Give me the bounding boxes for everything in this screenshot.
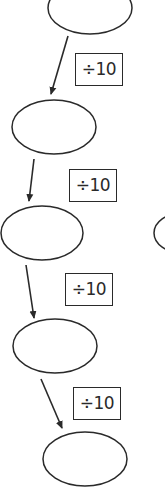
answer-oval-1 <box>48 0 132 34</box>
answer-oval-3 <box>1 206 83 260</box>
divide-by-ten-box-2: ÷10 <box>69 169 117 202</box>
down-arrow-icon-2 <box>29 159 34 201</box>
answer-oval-6 <box>154 213 165 253</box>
answer-oval-2 <box>12 100 96 154</box>
down-arrow-icon-1 <box>51 36 68 94</box>
answer-oval-5 <box>43 432 127 486</box>
down-arrow-icon-3 <box>26 265 34 318</box>
down-arrow-icon-4 <box>41 379 62 428</box>
answer-oval-4 <box>13 319 97 373</box>
division-chain-diagram: ÷10 ÷10 ÷10 ÷10 <box>0 0 165 490</box>
divide-by-ten-box-1: ÷10 <box>75 53 123 86</box>
divide-by-ten-box-3: ÷10 <box>65 273 113 306</box>
divide-by-ten-box-4: ÷10 <box>73 387 121 420</box>
